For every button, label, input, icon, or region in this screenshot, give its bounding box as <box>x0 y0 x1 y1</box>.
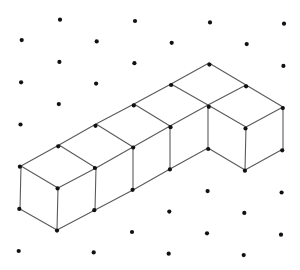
grid-dot <box>281 106 285 110</box>
cube-edge-GF <box>246 107 283 127</box>
grid-dot <box>17 249 21 253</box>
cube-edge-IO <box>59 124 96 145</box>
isometric-cube-diagram <box>0 0 300 270</box>
cube-edge-ST <box>57 210 95 230</box>
grid-dot <box>243 169 247 173</box>
grid-dot <box>167 252 171 256</box>
grid-dot <box>132 103 136 107</box>
cube-edge-PQ <box>21 166 58 188</box>
cube-edge-FD <box>208 105 246 127</box>
cube-edge-TN <box>95 190 133 210</box>
cube-edge-OP <box>21 145 59 166</box>
grid-dot <box>168 167 172 171</box>
cube-edge-OL <box>59 145 96 168</box>
cube-edge-KU <box>208 148 245 170</box>
grid-dot <box>168 125 172 129</box>
grid-dot <box>18 122 22 126</box>
grid-dot <box>94 82 98 86</box>
grid-dot <box>57 60 61 64</box>
grid-dot <box>170 41 174 45</box>
cube-edge-AB <box>171 63 209 84</box>
grid-dot <box>20 38 24 42</box>
cube-edge-UV <box>245 149 283 170</box>
grid-dot <box>207 63 211 67</box>
grid-dot <box>206 147 210 151</box>
cube-edge-AC <box>209 63 246 85</box>
grid-dot <box>208 20 212 24</box>
grid-dot <box>280 148 284 152</box>
cube-edge-CD <box>208 85 246 105</box>
grid-dot <box>132 61 136 65</box>
cube-edge-FU <box>245 127 246 170</box>
grid-dot <box>19 80 23 84</box>
cube-edge-HI <box>96 104 134 124</box>
cube-edge-NM <box>133 169 170 190</box>
grid-dot <box>130 230 134 234</box>
grid-dot <box>169 83 173 87</box>
cube-edge-EJ <box>133 126 170 147</box>
cube-edge-HE <box>134 104 170 126</box>
cube-edge-RS <box>20 209 57 230</box>
grid-dot <box>281 64 285 68</box>
grid-dot <box>205 231 209 235</box>
grid-dot <box>167 210 171 214</box>
grid-dot <box>92 208 96 212</box>
grid-dot <box>57 102 61 106</box>
grid-dot <box>131 188 135 192</box>
grid-dot <box>55 229 59 233</box>
cube-edge-BH <box>134 84 171 104</box>
grid-dot <box>17 207 21 211</box>
cube-edge-BD <box>171 84 208 105</box>
grid-dot <box>245 42 249 46</box>
cube-edge-LQ <box>58 168 96 188</box>
cube-edge-PR <box>20 166 21 209</box>
grid-dot <box>242 211 246 215</box>
grid-dot <box>280 190 284 194</box>
grid-dot <box>56 144 60 148</box>
grid-dot <box>133 19 137 23</box>
cube-edge-LT <box>95 168 96 210</box>
grid-dot <box>93 124 97 128</box>
grid-dot <box>282 22 286 26</box>
grid-dot <box>279 233 283 237</box>
cube-edge-MK <box>170 148 208 169</box>
grid-dot <box>206 189 210 193</box>
grid-dot <box>58 18 62 22</box>
grid-dot <box>95 39 99 43</box>
cube-edge-IJ <box>96 124 133 147</box>
grid-dot <box>244 84 248 88</box>
grid-dot <box>92 250 96 254</box>
cube-edge-CG <box>246 85 283 107</box>
grid-dot <box>18 165 22 169</box>
grid-dot <box>242 253 246 257</box>
grid-dot <box>243 126 247 130</box>
grid-dot <box>207 105 211 109</box>
grid-dot <box>131 146 135 150</box>
cube-edge-JL <box>96 147 133 168</box>
cube-edge-QS <box>57 188 58 230</box>
grid-dot <box>56 186 60 190</box>
grid-dot <box>93 166 97 170</box>
cube-edge-DE <box>170 105 208 126</box>
